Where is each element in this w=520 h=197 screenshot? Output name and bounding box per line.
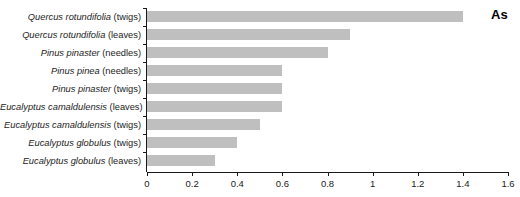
category-label: Quercus rotundifolia (twigs) xyxy=(0,12,141,23)
x-tick-mark xyxy=(192,172,193,176)
bar-row: Eucalyptus globulus (twigs) xyxy=(0,134,520,152)
plant-part: (needles) xyxy=(100,48,141,58)
category-label: Quercus rotundifolia (leaves) xyxy=(0,30,141,41)
species-name: Pinus pinea xyxy=(51,66,100,76)
plant-part: (leaves) xyxy=(105,30,141,40)
bar xyxy=(147,155,215,166)
plant-part: (leaves) xyxy=(105,156,141,166)
x-tick-label: 1 xyxy=(370,178,375,189)
x-tick-label: 1.4 xyxy=(456,178,469,189)
category-label: Eucalyptus camaldulensis (twigs) xyxy=(0,120,141,131)
bar xyxy=(147,119,260,130)
bar xyxy=(147,83,282,94)
plant-part: (needles) xyxy=(100,66,141,76)
bar-rows: Quercus rotundifolia (twigs)Quercus rotu… xyxy=(0,8,520,170)
species-name: Pinus pinaster xyxy=(52,84,111,94)
bar-row: Eucalyptus globulus (leaves) xyxy=(0,152,520,170)
x-tick-label: 1.6 xyxy=(501,178,514,189)
x-tick-mark xyxy=(508,172,509,176)
bar-track xyxy=(147,11,508,22)
x-tick-mark xyxy=(237,172,238,176)
category-label: Pinus pinea (needles) xyxy=(0,66,141,77)
species-name: Quercus rotundifolia xyxy=(28,12,111,22)
bar-track xyxy=(147,65,508,76)
x-tick-label: 1.2 xyxy=(411,178,424,189)
x-tick-label: 0 xyxy=(144,178,149,189)
bar-row: Pinus pinaster (needles) xyxy=(0,44,520,62)
bar-row: Pinus pinea (needles) xyxy=(0,62,520,80)
category-label: Pinus pinaster (twigs) xyxy=(0,84,141,95)
bar xyxy=(147,137,237,148)
x-tick-mark xyxy=(328,172,329,176)
bar xyxy=(147,11,463,22)
bar-row: Eucalyptus camaldulensis (leaves) xyxy=(0,98,520,116)
bar-chart: As Quercus rotundifolia (twigs)Quercus r… xyxy=(0,0,520,197)
bar-row: Eucalyptus camaldulensis (twigs) xyxy=(0,116,520,134)
x-tick-mark xyxy=(282,172,283,176)
bar-track xyxy=(147,83,508,94)
plant-part: (twigs) xyxy=(111,12,141,22)
species-name: Quercus rotundifolia xyxy=(22,30,105,40)
bar xyxy=(147,29,350,40)
x-tick-mark xyxy=(373,172,374,176)
x-tick-mark xyxy=(418,172,419,176)
plant-part: (twigs) xyxy=(111,138,141,148)
species-name: Eucalyptus globulus xyxy=(23,156,106,166)
y-axis-line xyxy=(146,8,147,172)
category-label: Pinus pinaster (needles) xyxy=(0,48,141,59)
bar xyxy=(147,65,282,76)
bar xyxy=(147,101,282,112)
bar-row: Quercus rotundifolia (leaves) xyxy=(0,26,520,44)
plot-area: Quercus rotundifolia (twigs)Quercus rotu… xyxy=(0,8,520,172)
bar-row: Quercus rotundifolia (twigs) xyxy=(0,8,520,26)
species-name: Eucalyptus globulus xyxy=(28,138,111,148)
bar xyxy=(147,47,328,58)
category-label: Eucalyptus camaldulensis (leaves) xyxy=(0,102,141,113)
category-label: Eucalyptus globulus (twigs) xyxy=(0,138,141,149)
species-name: Eucalyptus camaldulensis xyxy=(4,120,111,130)
bar-track xyxy=(147,155,508,166)
plant-part: (twigs) xyxy=(111,120,141,130)
plant-part: (twigs) xyxy=(111,84,141,94)
x-tick-label: 0.4 xyxy=(231,178,244,189)
species-name: Pinus pinaster xyxy=(41,48,100,58)
x-tick-mark xyxy=(147,172,148,176)
bar-track xyxy=(147,29,508,40)
bar-track xyxy=(147,101,508,112)
category-label: Eucalyptus globulus (leaves) xyxy=(0,156,141,167)
x-tick-label: 0.8 xyxy=(321,178,334,189)
bar-track xyxy=(147,47,508,58)
x-tick-label: 0.2 xyxy=(186,178,199,189)
x-tick-mark xyxy=(463,172,464,176)
plant-part: (leaves) xyxy=(107,102,143,112)
bar-track xyxy=(147,119,508,130)
species-name: Eucalyptus camaldulensis xyxy=(0,102,107,112)
bar-row: Pinus pinaster (twigs) xyxy=(0,80,520,98)
x-tick-label: 0.6 xyxy=(276,178,289,189)
bar-track xyxy=(147,137,508,148)
